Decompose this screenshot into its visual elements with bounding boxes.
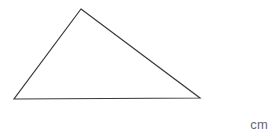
figure-container: cm (0, 0, 276, 136)
canvas-background (0, 0, 276, 136)
triangle-diagram-canvas (0, 0, 276, 136)
unit-label-cm: cm (250, 118, 268, 132)
